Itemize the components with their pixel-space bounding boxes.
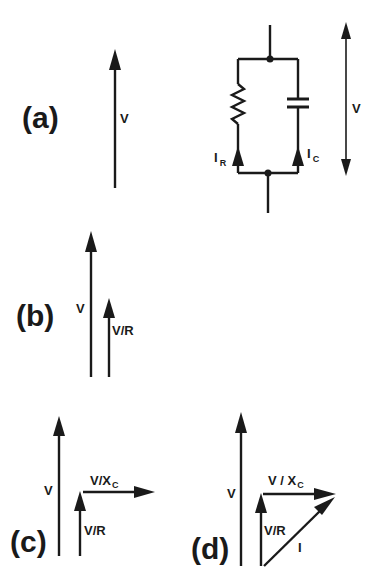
- vector-vr-label: V/R: [264, 523, 286, 538]
- panel-a-label: (a): [22, 101, 59, 134]
- phasor-diagram: (a) V: [0, 0, 371, 582]
- vector-vr-label: V/R: [84, 523, 106, 538]
- vector-v-label: V: [44, 483, 53, 498]
- vector-v-label: V: [76, 301, 85, 316]
- panel-b-label: (b): [16, 299, 54, 332]
- current-ir-label: IR: [214, 150, 227, 168]
- resistor-symbol: [232, 84, 244, 124]
- vector-v-arrow: [235, 412, 247, 566]
- panel-d-label: (d): [191, 532, 229, 565]
- junction-dot-top: [267, 56, 274, 63]
- vector-v-arrow: [85, 231, 97, 377]
- current-ir-arrow: [232, 146, 244, 166]
- capacitor-symbol: [287, 99, 309, 107]
- panel-c-label: (c): [10, 525, 47, 558]
- vector-v-label: V: [227, 486, 236, 501]
- vector-i-label: I: [298, 540, 302, 555]
- panel-d: (d) V V/R V / XC I: [191, 412, 336, 566]
- panel-c: (c) V V/R V/XC: [10, 416, 155, 558]
- vector-v-arrow: [53, 416, 65, 556]
- current-ic-arrow: [292, 146, 304, 166]
- panel-a: (a) V: [22, 22, 361, 213]
- voltage-label: V: [352, 101, 361, 116]
- vector-vxc-label: V / XC: [268, 473, 304, 490]
- parallel-rc-circuit: [232, 25, 309, 213]
- panel-b: (b) V V/R: [16, 231, 134, 377]
- vector-vxc-label: V/XC: [90, 473, 119, 490]
- vector-v-label: V: [120, 111, 129, 126]
- voltage-double-arrow: [341, 22, 351, 176]
- vector-vr-label: V/R: [112, 323, 134, 338]
- current-ic-label: IC: [307, 146, 320, 164]
